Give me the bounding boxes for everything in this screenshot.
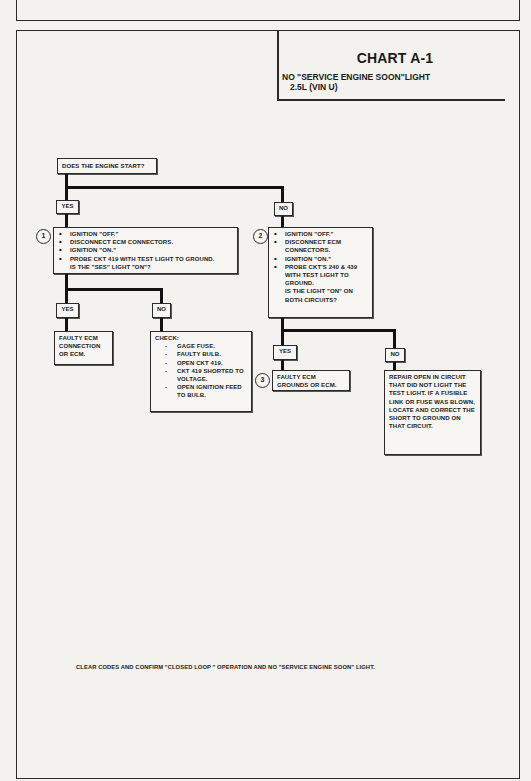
connector xyxy=(281,329,396,332)
step2-item: IGNITION "OFF." xyxy=(285,230,368,238)
chart-subtitle-line1: NO "SERVICE ENGINE SOON"LIGHT xyxy=(282,72,512,82)
connector xyxy=(160,288,163,304)
step2-item: DISCONNECT ECM CONNECTORS. xyxy=(285,238,368,254)
step2-question: IS THE LIGHT "ON" ON BOTH CIRCUITS? xyxy=(273,287,368,303)
yes-label: YES xyxy=(56,200,79,214)
chart-subtitle: NO "SERVICE ENGINE SOON"LIGHT 2.5L (VIN … xyxy=(282,72,512,92)
no-label: NO xyxy=(385,348,405,362)
step1-item: PROBE CKT 419 WITH TEST LIGHT TO GROUND. xyxy=(70,255,233,263)
step1-box: IGNITION "OFF." DISCONNECT ECM CONNECTOR… xyxy=(53,227,238,274)
step1-no-check-box: CHECK: GAGE FUSE. FAULTY BULB. OPEN CKT … xyxy=(150,331,252,412)
connector xyxy=(393,329,396,350)
check-item: CKT 419 SHORTED TO VOLTAGE. xyxy=(177,367,247,383)
check-item: GAGE FUSE. xyxy=(177,342,247,350)
check-item: OPEN CKT 419. xyxy=(177,359,247,367)
step1-item: IGNITION "OFF." xyxy=(70,230,233,238)
step1-item: DISCONNECT ECM CONNECTORS. xyxy=(70,238,233,246)
top-frame xyxy=(16,0,520,21)
step2-box: IGNITION "OFF." DISCONNECT ECM CONNECTOR… xyxy=(268,227,373,318)
check-item: FAULTY BULB. xyxy=(177,350,247,358)
check-item: OPEN IGNITION FEED TO BULB. xyxy=(177,383,247,399)
connector xyxy=(65,214,68,228)
no-label: NO xyxy=(152,303,171,318)
connector xyxy=(281,318,284,346)
check-heading: CHECK: xyxy=(155,334,247,342)
step1-item: IGNITION "ON." xyxy=(70,246,233,254)
step2-yes-result-box: FAULTY ECM GROUNDS OR ECM. xyxy=(272,370,350,391)
step2-no-result-box: REPAIR OPEN IN CIRCUIT THAT DID NOT LIGH… xyxy=(384,370,481,455)
title-divider xyxy=(277,31,279,99)
step1-yes-result-box: FAULTY ECM CONNECTION OR ECM. xyxy=(54,331,113,365)
step-number-1: 1 xyxy=(36,229,51,244)
connector xyxy=(281,186,284,203)
step-number-2: 2 xyxy=(253,229,268,244)
title-underline xyxy=(277,99,505,101)
connector xyxy=(65,318,68,331)
step2-item: IGNITION "ON." xyxy=(285,255,368,263)
start-question-box: DOES THE ENGINE START? xyxy=(57,158,157,174)
connector xyxy=(160,318,163,331)
no-label: NO xyxy=(274,202,293,216)
connector xyxy=(65,186,284,189)
footer-note: CLEAR CODES AND CONFIRM "CLOSED LOOP " O… xyxy=(76,664,496,670)
yes-label: YES xyxy=(273,345,297,360)
step1-question: IS THE "SES" LIGHT "ON"? xyxy=(58,263,233,271)
chart-subtitle-line2: 2.5L (VIN U) xyxy=(282,82,512,92)
yes-label: YES xyxy=(56,303,79,318)
step2-item: PROBE CKT'S 240 & 439 WITH TEST LIGHT TO… xyxy=(285,263,368,288)
step-number-3: 3 xyxy=(255,373,270,388)
chart-title: CHART A-1 xyxy=(300,50,490,66)
connector xyxy=(65,288,162,291)
